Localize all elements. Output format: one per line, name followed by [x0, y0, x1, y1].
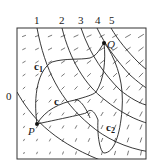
paths: [36, 43, 123, 153]
path-c2: [37, 43, 122, 153]
level-label-1: 1: [34, 14, 40, 26]
point-Q: [102, 41, 106, 45]
point-label-P: P: [27, 125, 35, 137]
vector-field-diagram: 0 1 2 3 4 5 P Q c1 c c2: [0, 0, 156, 163]
level-label-4: 4: [95, 14, 101, 26]
point-label-Q: Q: [107, 38, 115, 50]
level-label-5: 5: [109, 14, 115, 26]
point-P: [35, 122, 39, 126]
level-label-0: 0: [6, 90, 12, 102]
level-label-2: 2: [59, 14, 65, 26]
level-labels: 0 1 2 3 4 5: [6, 14, 115, 102]
curve-label-c1: c1: [34, 60, 43, 74]
curve-label-c: c: [54, 95, 59, 107]
curve-label-c2: c2: [106, 121, 115, 135]
level-label-3: 3: [78, 14, 84, 26]
